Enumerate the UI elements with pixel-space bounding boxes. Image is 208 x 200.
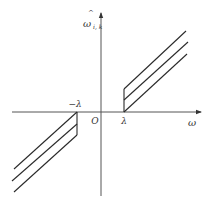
left-line-middle <box>12 124 77 181</box>
right-line-lower <box>124 54 187 112</box>
threshold-function-diagram: ^ ω i, k ω O λ −λ <box>0 0 208 200</box>
y-axis-label: ω <box>83 18 91 29</box>
y-axis-label-hat: ^ <box>88 9 94 17</box>
left-line-upper <box>14 112 77 169</box>
origin-label: O <box>91 116 99 126</box>
neg-lambda-tick-label: −λ <box>68 99 81 109</box>
left-branch <box>12 112 77 192</box>
left-line-lower <box>14 135 77 192</box>
right-line-middle <box>124 42 188 100</box>
right-branch <box>124 31 188 112</box>
right-line-upper <box>124 31 186 89</box>
y-axis-label-subscript: i, k <box>93 23 103 30</box>
lambda-tick-label: λ <box>120 116 127 126</box>
x-axis-label: ω <box>188 117 196 128</box>
